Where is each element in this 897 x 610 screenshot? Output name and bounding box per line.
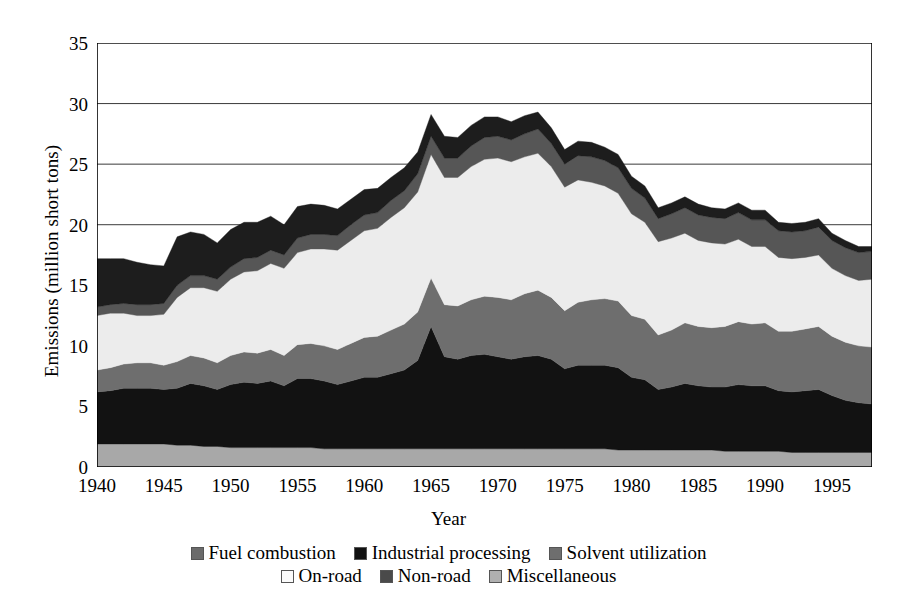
x-tick-label: 1965 xyxy=(412,476,450,495)
legend-swatch-icon xyxy=(549,547,562,560)
legend-item-on-road[interactable]: On-road xyxy=(281,564,362,587)
x-axis-tick-labels: 1940194519501955196019651970197519801985… xyxy=(97,476,872,502)
x-tick-label: 1975 xyxy=(546,476,584,495)
legend-label: Miscellaneous xyxy=(507,564,617,587)
legend-row-bottom: On-roadNon-roadMiscellaneous xyxy=(0,564,897,587)
legend-item-non-road[interactable]: Non-road xyxy=(380,564,471,587)
y-axis-tick-labels: 05101520253035 xyxy=(38,43,88,467)
legend-label: Industrial processing xyxy=(372,541,531,564)
chart-legend: Fuel combustionIndustrial processingSolv… xyxy=(0,541,897,587)
legend-label: On-road xyxy=(299,564,362,587)
legend-swatch-icon xyxy=(380,570,393,583)
y-tick-label: 10 xyxy=(48,336,88,355)
legend-swatch-icon xyxy=(281,570,294,583)
y-tick-label: 35 xyxy=(48,34,88,53)
y-tick-label: 25 xyxy=(48,155,88,174)
legend-item-miscellaneous[interactable]: Miscellaneous xyxy=(489,564,617,587)
x-tick-label: 1985 xyxy=(679,476,717,495)
plot-area xyxy=(97,43,872,467)
x-tick-label: 1970 xyxy=(479,476,517,495)
x-tick-label: 1950 xyxy=(212,476,250,495)
y-tick-label: 20 xyxy=(48,215,88,234)
stacked-area-plot xyxy=(97,43,872,467)
legend-swatch-icon xyxy=(191,547,204,560)
x-tick-label: 1960 xyxy=(345,476,383,495)
legend-label: Non-road xyxy=(398,564,471,587)
legend-item-industrial-processing[interactable]: Industrial processing xyxy=(354,541,531,564)
y-tick-label: 5 xyxy=(48,397,88,416)
x-tick-label: 1995 xyxy=(813,476,851,495)
legend-swatch-icon xyxy=(354,547,367,560)
legend-label: Solvent utilization xyxy=(567,541,707,564)
y-tick-label: 15 xyxy=(48,276,88,295)
chart-figure: Emissions (million short tons) 051015202… xyxy=(0,0,897,610)
x-tick-label: 1990 xyxy=(746,476,784,495)
legend-item-solvent-utilization[interactable]: Solvent utilization xyxy=(549,541,707,564)
x-tick-label: 1945 xyxy=(145,476,183,495)
x-axis-title: Year xyxy=(0,508,897,530)
legend-swatch-icon xyxy=(489,570,502,583)
legend-row-top: Fuel combustionIndustrial processingSolv… xyxy=(0,541,897,564)
legend-label: Fuel combustion xyxy=(209,541,336,564)
legend-item-fuel-combustion[interactable]: Fuel combustion xyxy=(191,541,336,564)
x-tick-label: 1940 xyxy=(78,476,116,495)
y-tick-label: 30 xyxy=(48,94,88,113)
x-tick-label: 1955 xyxy=(278,476,316,495)
y-tick-label: 0 xyxy=(48,458,88,477)
x-tick-label: 1980 xyxy=(612,476,650,495)
